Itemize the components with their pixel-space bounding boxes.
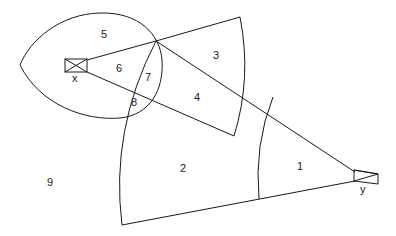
region-9-label: 9 (47, 176, 53, 188)
arc-sector-2 (120, 41, 156, 225)
node-y-box (354, 170, 378, 184)
region-3-label: 3 (213, 49, 219, 61)
arc-sector-1 (258, 97, 273, 199)
region-4-label: 4 (194, 91, 200, 103)
region-2-label: 2 (180, 162, 186, 174)
region-diagram: x y 1 2 3 4 5 6 7 8 9 (0, 0, 396, 236)
ray-x-upper (87, 41, 156, 60)
ray-p-upper (156, 17, 240, 41)
region-7-label: 7 (145, 71, 151, 83)
node-y-label: y (360, 183, 366, 195)
ray-y-lower (122, 181, 355, 225)
node-x-box (65, 59, 87, 72)
region-5-label: 5 (101, 28, 107, 40)
region-1-label: 1 (297, 160, 303, 172)
node-x-label: x (72, 72, 78, 84)
region-6-label: 6 (116, 62, 122, 74)
arc-sector-3-4 (234, 17, 245, 136)
region-8-label: 8 (131, 96, 137, 108)
teardrop-boundary (20, 13, 162, 118)
ray-y-upper (156, 41, 355, 172)
